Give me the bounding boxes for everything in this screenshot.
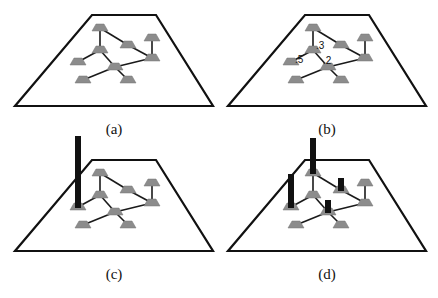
panel-a: (a) xyxy=(15,15,213,138)
panel-b: (b).3.5.2 xyxy=(228,15,426,138)
edge-weight-label: .2 xyxy=(323,55,332,66)
value-bar xyxy=(75,136,81,208)
value-bar xyxy=(338,178,344,191)
plane-surface xyxy=(15,160,213,251)
panel-d: (d) xyxy=(228,138,426,283)
panel-caption: (d) xyxy=(318,266,336,283)
edge-weight-label: .3 xyxy=(316,40,325,51)
panel-c: (c) xyxy=(15,136,213,283)
value-bar xyxy=(310,138,316,174)
plane-surface xyxy=(15,15,213,106)
panel-caption: (a) xyxy=(106,121,123,138)
value-bar xyxy=(325,200,331,213)
network-figure: (a)(b).3.5.2(c)(d) xyxy=(0,0,438,298)
panel-caption: (c) xyxy=(106,266,123,283)
panel-caption: (b) xyxy=(318,121,336,138)
edge-weight-label: .5 xyxy=(295,54,304,65)
value-bar xyxy=(288,174,294,208)
